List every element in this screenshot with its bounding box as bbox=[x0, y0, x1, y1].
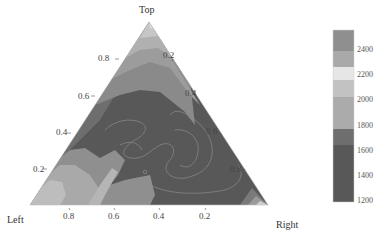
colorbar-tick: 1200 bbox=[357, 196, 373, 205]
contour-fill bbox=[0, 0, 379, 237]
bottom-tick-label: 0.8 bbox=[63, 211, 74, 221]
colorbar bbox=[333, 30, 354, 202]
colorbar-tick: 1800 bbox=[357, 121, 373, 130]
ternary-plot bbox=[0, 0, 379, 237]
colorbar-tick: 1600 bbox=[357, 146, 373, 155]
axis-title-top: Top bbox=[139, 4, 154, 15]
axis-title-right: Right bbox=[276, 219, 298, 230]
colorbar-tick: 2400 bbox=[357, 45, 373, 54]
right-tick-label: 0.2 bbox=[163, 50, 174, 60]
colorbar-tick: 2200 bbox=[357, 70, 373, 79]
axis-title-left: Left bbox=[7, 214, 24, 225]
colorbar-tick: 1400 bbox=[357, 171, 373, 180]
bottom-tick-label: 0.6 bbox=[108, 211, 119, 221]
left-tick-label: 0.2 bbox=[33, 164, 44, 174]
right-tick-label: 0.4 bbox=[185, 88, 196, 98]
right-tick-label: 0.8 bbox=[230, 164, 241, 174]
left-tick-label: 0.4 bbox=[56, 127, 67, 137]
left-tick-label: 0.6 bbox=[78, 91, 89, 101]
right-tick-label: 0.6 bbox=[206, 126, 217, 136]
bottom-ticks bbox=[69, 208, 206, 210]
colorbar-tick: 2000 bbox=[357, 95, 373, 104]
bottom-tick-label: 0.4 bbox=[153, 211, 164, 221]
bottom-tick-label: 0.2 bbox=[199, 211, 210, 221]
left-tick-label: 0.8 bbox=[98, 53, 109, 63]
